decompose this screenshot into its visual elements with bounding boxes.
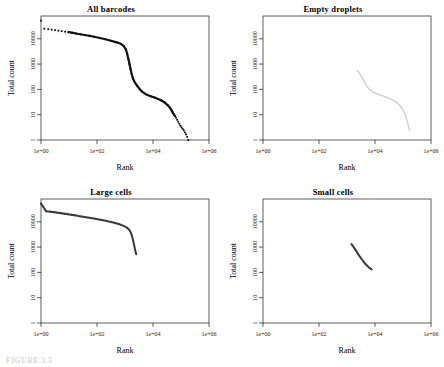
y-tick-label: 10000 <box>252 31 258 46</box>
x-axis-label: Rank <box>339 346 356 355</box>
data-point <box>43 28 45 30</box>
y-tick-label: 10 <box>30 295 36 301</box>
x-tick-label: 1e+02 <box>311 148 326 154</box>
y-axis-label: Total count <box>229 59 238 96</box>
figure-container: All barcodes 1e+001e+021e+041e+06Rank100… <box>0 0 444 367</box>
y-tick-label: 1000 <box>30 241 36 253</box>
data-point <box>61 30 63 32</box>
data-point <box>183 129 185 131</box>
data-point <box>177 121 179 123</box>
y-tick-label: 1000 <box>30 58 36 70</box>
y-tick-label: 10000 <box>30 31 36 46</box>
x-tick-label: 1e+00 <box>33 148 48 154</box>
data-point <box>54 29 56 31</box>
plot-box <box>263 199 431 323</box>
x-tick-label: 1e+02 <box>311 331 326 337</box>
y-tick-label: 100 <box>30 268 36 277</box>
figure-caption: FIGURE 3.3 <box>6 356 52 365</box>
data-point <box>186 136 188 138</box>
data-point <box>40 203 42 205</box>
x-tick-label: 1e+00 <box>255 148 270 154</box>
plot-empty-droplets: 1e+001e+021e+041e+06Rank100001000100101T… <box>222 0 444 183</box>
y-tick-label: 100 <box>252 85 258 94</box>
data-point <box>50 211 52 213</box>
panel-empty-droplets: Empty droplets 1e+001e+021e+041e+06Rank1… <box>222 0 444 183</box>
plot-small-cells: 1e+001e+021e+041e+06Rank100001000100101T… <box>222 183 444 366</box>
plot-large-cells: 1e+001e+021e+041e+06Rank100001000100101T… <box>0 183 222 366</box>
y-tick-label: 1 <box>30 322 36 325</box>
x-axis-label: Rank <box>117 163 134 172</box>
y-tick-label: 1000 <box>252 241 258 253</box>
data-point <box>57 212 59 214</box>
y-tick-label: 10 <box>252 112 258 118</box>
data-series <box>357 70 410 130</box>
x-axis-label: Rank <box>339 163 356 172</box>
data-series <box>41 204 136 255</box>
data-point <box>64 31 66 33</box>
x-tick-label: 1e+04 <box>367 148 382 154</box>
panel-large-cells: Large cells 1e+001e+021e+041e+06Rank1000… <box>0 183 222 366</box>
y-tick-label: 1 <box>252 139 258 142</box>
x-tick-label: 1e+00 <box>33 331 48 337</box>
x-tick-label: 1e+04 <box>145 148 160 154</box>
data-series <box>68 32 174 116</box>
y-tick-label: 100 <box>30 85 36 94</box>
y-tick-label: 1000 <box>252 58 258 70</box>
y-tick-label: 10000 <box>252 214 258 229</box>
x-tick-label: 1e+06 <box>423 148 438 154</box>
data-point <box>185 134 187 136</box>
data-point <box>70 214 72 216</box>
x-tick-label: 1e+06 <box>423 331 438 337</box>
plot-box <box>263 16 431 140</box>
x-tick-label: 1e+00 <box>255 331 270 337</box>
data-point <box>45 210 47 212</box>
y-tick-label: 100 <box>252 268 258 277</box>
data-point <box>40 20 42 22</box>
data-point <box>187 139 189 141</box>
panel-all-barcodes: All barcodes 1e+001e+021e+041e+06Rank100… <box>0 0 222 183</box>
y-tick-label: 10 <box>252 295 258 301</box>
data-point <box>54 211 56 213</box>
plot-box <box>41 199 209 323</box>
data-point <box>47 28 49 30</box>
data-point <box>67 213 69 215</box>
x-axis-label: Rank <box>117 346 134 355</box>
x-tick-label: 1e+04 <box>367 331 382 337</box>
data-point <box>57 30 59 32</box>
data-point <box>51 29 53 31</box>
y-axis-label: Total count <box>7 242 16 279</box>
x-tick-label: 1e+04 <box>145 331 160 337</box>
y-tick-label: 10000 <box>30 214 36 229</box>
data-point <box>184 132 186 134</box>
y-tick-label: 1 <box>252 322 258 325</box>
plot-all-barcodes: 1e+001e+021e+041e+06Rank100001000100101T… <box>0 0 222 183</box>
y-axis-label: Total count <box>7 59 16 96</box>
y-tick-label: 1 <box>30 139 36 142</box>
data-point <box>175 117 177 119</box>
data-series <box>351 244 371 269</box>
panel-small-cells: Small cells 1e+001e+021e+041e+06Rank1000… <box>222 183 444 366</box>
data-point <box>176 119 178 121</box>
data-point <box>64 213 66 215</box>
y-axis-label: Total count <box>229 242 238 279</box>
data-point <box>60 212 62 214</box>
x-tick-label: 1e+02 <box>89 331 104 337</box>
data-point <box>178 123 180 125</box>
x-tick-label: 1e+06 <box>201 331 216 337</box>
plot-box <box>41 16 209 140</box>
x-tick-label: 1e+06 <box>201 148 216 154</box>
data-point <box>74 214 76 216</box>
y-tick-label: 10 <box>30 112 36 118</box>
x-tick-label: 1e+02 <box>89 148 104 154</box>
